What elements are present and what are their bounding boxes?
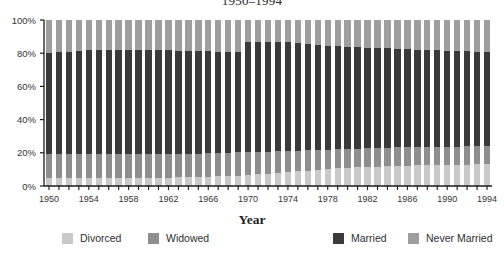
bar-segment: [175, 20, 181, 51]
bar-segment: [344, 47, 350, 149]
bar-segment: [125, 154, 131, 177]
bar-segment: [285, 172, 291, 186]
bar-segment: [225, 52, 231, 153]
bar-segment: [335, 20, 341, 46]
bar-segment: [305, 44, 311, 151]
bar-segment: [335, 46, 341, 149]
legend-item[interactable]: Widowed: [148, 232, 209, 244]
bar-segment: [315, 170, 321, 186]
bar-segment: [464, 51, 470, 146]
bar-segment: [195, 51, 201, 154]
bar-segment: [185, 20, 191, 51]
bar-segment: [265, 152, 271, 174]
bar-segment: [295, 171, 301, 186]
plot-area: 0%20%40%60%80%100% 195019541958196219661…: [0, 0, 504, 232]
bar-segment: [275, 42, 281, 151]
bar-segment: [394, 166, 400, 186]
bar-segment: [454, 146, 460, 164]
bar-segment: [464, 146, 470, 164]
bar-segment: [394, 49, 400, 148]
bar-segment: [344, 168, 350, 186]
bar-segment: [106, 50, 112, 155]
bar-segment: [414, 165, 420, 186]
x-tick-label: 1966: [198, 194, 218, 204]
bar-segment: [434, 165, 440, 186]
bar-segment: [434, 50, 440, 147]
bar-segment: [165, 178, 171, 186]
bar-segment: [364, 148, 370, 167]
bar-segment: [86, 154, 92, 177]
bar-segment: [404, 166, 410, 186]
bar-segment: [205, 51, 211, 153]
legend-item[interactable]: Married: [333, 232, 387, 244]
bar-segment: [484, 52, 490, 146]
legend-label: Widowed: [166, 232, 209, 244]
bar-segment: [394, 20, 400, 49]
bar-segment: [86, 178, 92, 186]
x-tick-label: 1990: [437, 194, 457, 204]
bar-segment: [275, 20, 281, 42]
bar-segment: [424, 50, 430, 147]
bar-segment: [315, 20, 321, 45]
bar-segment: [444, 147, 450, 165]
x-axis: 1950195419581962196619701974197819821986…: [39, 186, 497, 204]
x-tick-label: 1958: [119, 194, 139, 204]
bar-segment: [66, 20, 72, 52]
x-tick-label: 1994: [477, 194, 497, 204]
bar-segment: [115, 154, 121, 177]
bar-segment: [76, 20, 82, 51]
legend-item[interactable]: Divorced: [62, 232, 121, 244]
bar-segment: [145, 178, 151, 186]
legend-item[interactable]: Never Married: [408, 232, 493, 244]
x-tick-label: 1954: [79, 194, 99, 204]
legend-swatch-married: [333, 233, 344, 244]
y-axis: 0%20%40%60%80%100%: [12, 15, 44, 192]
bar-segment: [374, 48, 380, 148]
bar-segment: [215, 153, 221, 176]
bar-segment: [255, 20, 261, 42]
bar-segment: [86, 20, 92, 50]
bar-segment: [96, 178, 102, 186]
bar-segment: [265, 174, 271, 186]
bar-segment: [205, 153, 211, 176]
x-tick-label: 1982: [358, 194, 378, 204]
bar-segment: [295, 20, 301, 43]
bar-segment: [205, 20, 211, 51]
bar-segment: [235, 176, 241, 186]
bar-segment: [305, 150, 311, 170]
bar-segment: [125, 178, 131, 186]
legend-label: Never Married: [426, 232, 493, 244]
bar-segment: [225, 153, 231, 176]
bar-segment: [215, 52, 221, 154]
bar-segment: [354, 167, 360, 186]
bar-segment: [76, 154, 82, 177]
bar-segment: [76, 51, 82, 155]
bar-segment: [115, 50, 121, 155]
bar-segment: [125, 50, 131, 155]
bar-segment: [235, 20, 241, 52]
stacked-bar-chart: 1950–1994 0%20%40%60%80%100% 19501954195…: [0, 0, 504, 261]
bar-segment: [235, 152, 241, 175]
bar-segment: [444, 51, 450, 147]
bar-segment: [265, 20, 271, 42]
bar-segment: [354, 47, 360, 149]
bar-segment: [484, 20, 490, 52]
bar-segment: [354, 20, 360, 47]
y-tick-label: 80%: [17, 48, 37, 59]
bar-segment: [66, 154, 72, 177]
bar-segment: [444, 20, 450, 51]
bar-segment: [215, 176, 221, 186]
bar-segment: [275, 151, 281, 173]
chart-legend: Divorced Widowed Married Never Married: [0, 232, 504, 254]
bar-segment: [315, 45, 321, 150]
bar-segment: [315, 150, 321, 170]
bar-segment: [474, 164, 480, 186]
x-axis-title: Year: [239, 212, 266, 227]
legend-swatch-never-married: [408, 233, 419, 244]
bar-segment: [155, 178, 161, 186]
y-tick-label: 60%: [17, 81, 37, 92]
bar-segment: [245, 42, 251, 152]
bar-segment: [46, 154, 52, 177]
bar-segment: [414, 20, 420, 50]
legend-label: Divorced: [80, 232, 121, 244]
